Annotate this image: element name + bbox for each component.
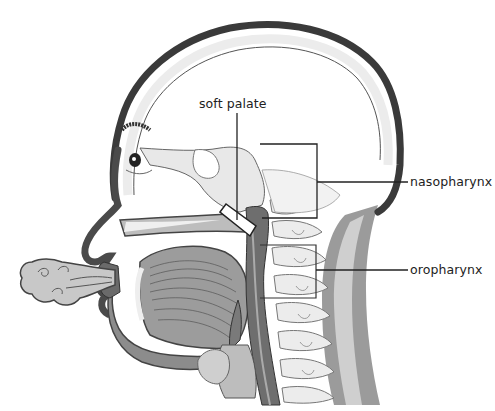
label-nasopharynx: nasopharynx [410,174,492,189]
label-soft-palate: soft palate [199,96,267,111]
anatomy-diagram [0,0,495,411]
label-oropharynx: oropharynx [410,262,483,277]
